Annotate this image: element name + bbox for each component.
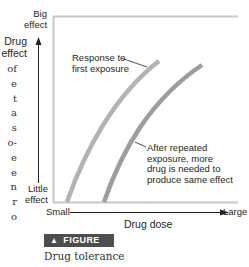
x-axis-title: Drug dose (124, 219, 172, 230)
figure-caption: Drug tolerance (44, 250, 125, 262)
x-axis-arrow (70, 210, 229, 216)
y-axis-arrow (36, 37, 42, 183)
annotation-repeated-exposure: After repeated exposure, more drug is ne… (147, 143, 233, 185)
figure-label: ▲FIGURE 3.18 (44, 234, 114, 247)
y-axis-title: Drug effect (0, 36, 27, 59)
caret-up-icon: ▲ (50, 234, 58, 247)
x-axis-max-label: Large (223, 207, 247, 218)
y-axis-max-label: Big effect (24, 9, 47, 30)
x-axis-min-label: Small (46, 207, 70, 218)
leader-line-repeated (135, 142, 146, 147)
y-axis-min-label: Little effect (24, 184, 48, 205)
annotation-first-exposure: Response to first exposure (72, 53, 129, 74)
